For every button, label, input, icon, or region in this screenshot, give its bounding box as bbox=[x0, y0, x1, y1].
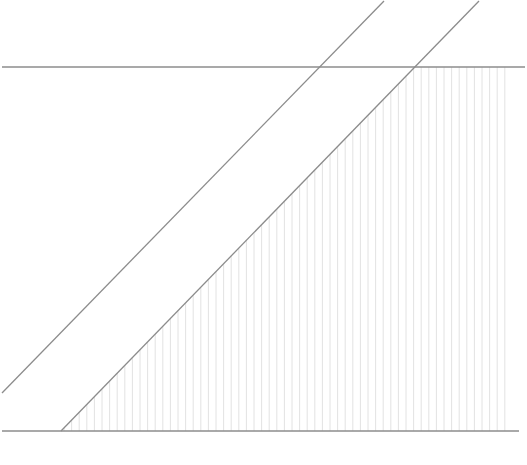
right-diagonal-line bbox=[61, 1, 479, 431]
hatched-region bbox=[64, 67, 505, 431]
parallel-lines-diagram bbox=[0, 0, 527, 465]
